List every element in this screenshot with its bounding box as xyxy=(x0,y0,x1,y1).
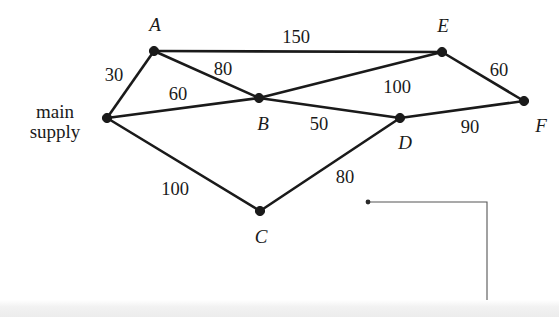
edge-weight-b-e: 100 xyxy=(383,78,411,98)
edge-weight-s-b: 60 xyxy=(169,85,188,105)
node-label-f: F xyxy=(535,116,547,136)
edge-weight-s-a: 30 xyxy=(105,66,124,86)
graph-edge-a-e xyxy=(154,51,442,52)
leader-line-dot xyxy=(366,200,371,205)
edge-weight-c-d: 80 xyxy=(336,168,355,188)
graph-edge-b-d xyxy=(259,98,400,118)
graph-node-s xyxy=(102,113,111,122)
node-label-b: B xyxy=(257,114,269,134)
graph-node-a xyxy=(149,46,158,55)
node-label-e: E xyxy=(437,16,449,36)
annotation-layer xyxy=(366,200,487,317)
graph-edge-b-e xyxy=(259,52,442,98)
edge-weight-a-e: 150 xyxy=(282,28,310,48)
node-label-d: D xyxy=(398,133,412,153)
node-label-c: C xyxy=(255,227,268,247)
graph-node-f xyxy=(519,96,528,105)
edge-weight-s-c: 100 xyxy=(161,180,189,200)
graph-node-d xyxy=(395,113,404,122)
node-label-main-supply-line1: main xyxy=(30,102,81,122)
edge-weight-d-f: 90 xyxy=(461,118,480,138)
graph-edge-c-d xyxy=(260,118,400,211)
edge-weight-e-f: 60 xyxy=(490,61,509,81)
graph-edge-d-f xyxy=(400,101,524,118)
node-label-main-supply-line2: supply xyxy=(30,122,81,142)
edge-weight-a-b: 80 xyxy=(214,60,233,80)
figure-canvas: mainsupplyABCDEF30601001508010050806090 xyxy=(0,0,559,317)
network-graph-svg xyxy=(0,0,559,317)
leader-line-path xyxy=(368,202,487,317)
graph-node-e xyxy=(437,47,446,56)
graph-edge-e-f xyxy=(442,52,524,101)
edge-weight-b-d: 50 xyxy=(310,115,329,135)
graph-node-b xyxy=(254,93,263,102)
node-label-a: A xyxy=(149,15,161,35)
node-label-main-supply: mainsupply xyxy=(30,102,81,142)
graph-node-c xyxy=(255,206,264,215)
